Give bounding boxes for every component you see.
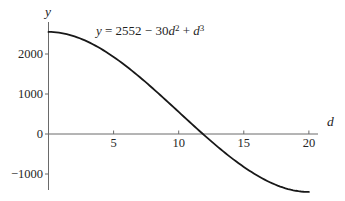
x-tick-label: 20: [303, 136, 316, 150]
x-axis-label: d: [327, 115, 334, 129]
y-axis-label: y: [45, 5, 51, 19]
y-tick-label: 0: [37, 127, 43, 141]
equation-superscript: 2: [175, 23, 180, 33]
function-curve: [49, 32, 309, 192]
y-tick-label: −1000: [11, 167, 43, 181]
y-tick-label: 1000: [18, 87, 43, 101]
x-tick-label: 10: [172, 136, 185, 150]
equation-segment: +: [179, 23, 193, 38]
y-tick-label: 2000: [18, 47, 43, 61]
equation-segment: d: [168, 23, 175, 38]
x-tick-label: 15: [238, 136, 251, 150]
equation-superscript: 3: [200, 23, 205, 33]
equation-segment: = 2552 − 30: [102, 23, 169, 38]
x-tick-label: 5: [110, 136, 116, 150]
equation-annotation: y = 2552 − 30d2 + d3: [96, 23, 204, 39]
function-plot-figure: 5101520200010000−1000 y d y = 2552 − 30d…: [0, 0, 345, 201]
equation-segment: d: [193, 23, 200, 38]
